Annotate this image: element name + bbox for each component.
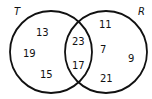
t-only-value: 13 <box>36 27 49 38</box>
r-only-value: 21 <box>100 73 113 84</box>
t-only-value: 19 <box>23 48 36 59</box>
venn-diagram: T R 13 19 15 23 17 11 7 9 21 <box>0 0 152 99</box>
set-r-label: R <box>138 6 145 17</box>
r-only-value: 9 <box>128 53 134 64</box>
intersection-value: 17 <box>72 60 85 71</box>
t-only-value: 15 <box>40 69 53 80</box>
intersection-value: 23 <box>72 36 85 47</box>
r-only-value: 11 <box>99 19 112 30</box>
set-t-label: T <box>14 6 21 17</box>
r-only-value: 7 <box>100 44 106 55</box>
